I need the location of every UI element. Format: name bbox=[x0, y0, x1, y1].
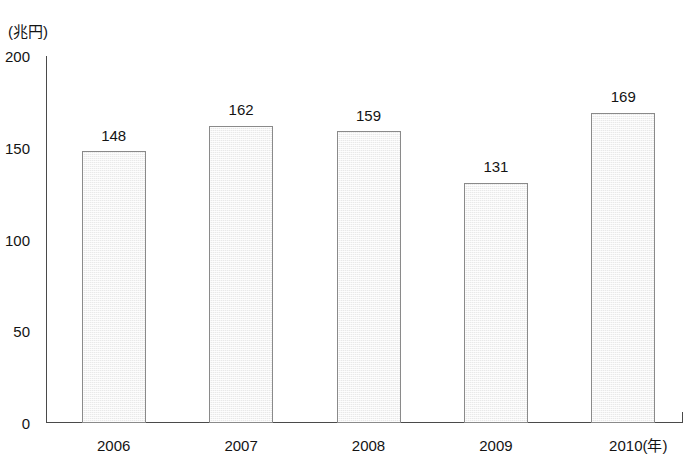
y-tick-label-200: 200 bbox=[5, 49, 30, 64]
bar-2006 bbox=[82, 151, 146, 423]
bar-value-2006: 148 bbox=[101, 128, 126, 143]
bar-value-2008: 159 bbox=[356, 108, 381, 123]
x-axis-end-tick bbox=[682, 412, 683, 423]
x-tick-label-2010-year: 2010 bbox=[609, 437, 642, 454]
x-tick-label-2010: 2010(年) bbox=[609, 438, 667, 453]
y-axis-unit-label: (兆円) bbox=[8, 20, 48, 41]
bar-value-2009: 131 bbox=[483, 159, 508, 174]
x-tick-label-2009: 2009 bbox=[479, 438, 512, 453]
y-tick-label-100: 100 bbox=[5, 232, 30, 247]
x-tick-label-2006: 2006 bbox=[97, 438, 130, 453]
plot-area: 0 50 100 150 200 148 162 159 131 169 200… bbox=[46, 56, 683, 423]
x-tick-label-2007: 2007 bbox=[224, 438, 257, 453]
bar-2008 bbox=[337, 131, 401, 423]
bar-2007 bbox=[209, 126, 273, 423]
y-tick-label-50: 50 bbox=[13, 324, 30, 339]
bar-value-2010: 169 bbox=[611, 89, 636, 104]
y-tick-label-0: 0 bbox=[22, 416, 30, 431]
y-axis-line bbox=[46, 56, 47, 423]
bar-value-2007: 162 bbox=[229, 102, 254, 117]
x-tick-label-2008: 2008 bbox=[352, 438, 385, 453]
y-tick-label-150: 150 bbox=[5, 140, 30, 155]
x-axis-unit-label: (年) bbox=[642, 437, 667, 454]
bar-2010 bbox=[591, 113, 655, 423]
bar-2009 bbox=[464, 183, 528, 423]
